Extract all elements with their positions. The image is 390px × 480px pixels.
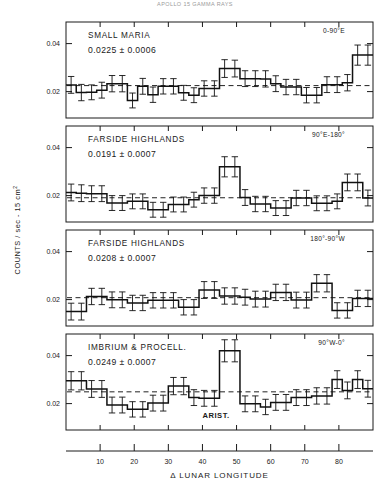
panel-title: FARSIDE HIGHLANDS — [88, 135, 185, 144]
x-axis-tick-label: 40 — [199, 458, 207, 465]
panel-farside-highlands-east: 0.020.04FARSIDE HIGHLANDS0.0191 ± 0.0007… — [46, 126, 373, 222]
panel-title: SMALL MARIA — [88, 31, 150, 40]
panel-title: FARSIDE HIGHLANDS — [88, 239, 185, 248]
panel-range-label: 90°E-180° — [312, 131, 345, 138]
y-tick-label: 0.04 — [46, 248, 60, 255]
y-tick-label: 0.02 — [46, 296, 60, 303]
panel-imbrium-procellarum: 0.020.04IMBRIUM & PROCELL.0.0249 ± 0.000… — [46, 334, 373, 430]
panel-mean-value: 0.0225 ± 0.0006 — [88, 45, 156, 55]
x-axis-tick-label: 60 — [267, 458, 275, 465]
panel-mean-value: 0.0249 ± 0.0007 — [88, 357, 156, 367]
y-axis-title: COUNTS / sec - 15 cm2 — [12, 186, 22, 275]
panel-title: IMBRIUM & PROCELL. — [88, 343, 187, 352]
panel-farside-highlands-west: 0.020.04FARSIDE HIGHLANDS0.0208 ± 0.0007… — [46, 230, 373, 326]
panel-mean-value: 0.0208 ± 0.0007 — [88, 253, 156, 263]
x-axis-tick-label: 20 — [130, 458, 138, 465]
y-tick-label: 0.04 — [46, 40, 60, 47]
x-axis: 1020304050607080Δ LUNAR LONGITUDE — [66, 444, 373, 480]
panel-range-label: 90°W-0° — [318, 339, 345, 346]
x-axis-tick-label: 80 — [335, 458, 343, 465]
y-tick-label: 0.02 — [46, 192, 60, 199]
panel-annotation: ARIST. — [203, 411, 230, 420]
y-axis-title-superscript: 2 — [12, 186, 18, 189]
chart-svg: 0.020.04SMALL MARIA0.0225 ± 0.00060-90°E… — [0, 0, 390, 480]
y-tick-label: 0.02 — [46, 88, 60, 95]
figure-root: APOLLO 15 GAMMA RAYS 0.020.04SMALL MARIA… — [0, 0, 390, 480]
x-axis-tick-label: 70 — [301, 458, 309, 465]
x-axis-tick-label: 30 — [164, 458, 172, 465]
y-tick-label: 0.04 — [46, 352, 60, 359]
x-axis-tick-label: 10 — [96, 458, 104, 465]
x-axis-tick-label: 50 — [233, 458, 241, 465]
panel-range-label: 180°-90°W — [310, 235, 345, 242]
plot-area: 0.020.04SMALL MARIA0.0225 ± 0.00060-90°E… — [0, 0, 390, 480]
panel-mean-value: 0.0191 ± 0.0007 — [88, 149, 156, 159]
y-axis-title-text: COUNTS / sec - 15 cm2 — [12, 186, 22, 275]
y-tick-label: 0.02 — [46, 400, 60, 407]
x-axis-title: Δ LUNAR LONGITUDE — [170, 471, 268, 480]
panel-range-label: 0-90°E — [323, 27, 345, 34]
y-tick-label: 0.04 — [46, 144, 60, 151]
panel-small-maria: 0.020.04SMALL MARIA0.0225 ± 0.00060-90°E — [46, 22, 373, 118]
